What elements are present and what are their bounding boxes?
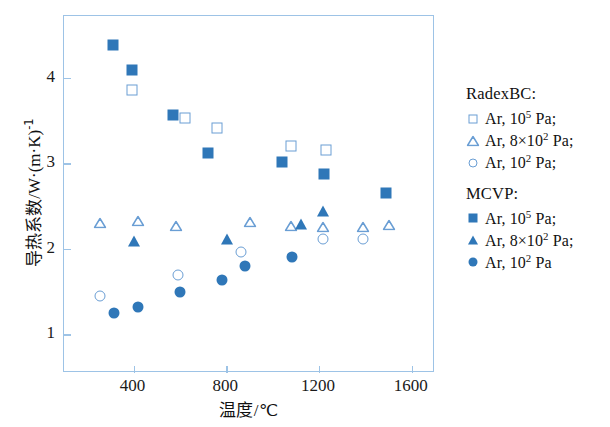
data-point — [170, 220, 183, 231]
legend-marker-square-open-icon — [466, 112, 480, 126]
y-axis-title-unit: /W·(m·K) — [25, 130, 44, 199]
legend-exponent: 2 — [543, 130, 549, 142]
data-point — [94, 290, 105, 301]
data-point — [127, 64, 138, 75]
data-point — [107, 40, 118, 51]
legend: RadexBC:Ar, 105 Pa;Ar, 8×102 Pa;Ar, 102 … — [466, 86, 610, 273]
legend-marker-triangle-filled-icon — [466, 233, 480, 247]
data-point — [239, 260, 250, 271]
x-tick — [412, 366, 413, 373]
legend-item-label: Ar, 105 Pa; — [485, 109, 556, 127]
data-point — [276, 156, 287, 167]
legend-exponent: 2 — [526, 252, 532, 264]
x-tick-label: 800 — [213, 376, 239, 396]
x-tick-label: 1600 — [394, 376, 428, 396]
data-point — [236, 247, 247, 258]
data-point — [381, 188, 392, 199]
data-point — [212, 123, 223, 134]
data-point — [243, 217, 256, 228]
data-point — [358, 234, 369, 245]
data-point — [127, 85, 138, 96]
data-point — [179, 112, 190, 123]
legend-marker-circle-filled-icon — [466, 255, 480, 269]
x-axis-title-text: 温度 — [219, 400, 253, 420]
data-point — [172, 269, 183, 280]
data-point — [167, 110, 178, 121]
data-point — [202, 147, 213, 158]
data-point — [128, 236, 140, 247]
legend-item-label: Ar, 8×102 Pa; — [485, 231, 573, 249]
data-point — [382, 219, 395, 230]
legend-item[interactable]: Ar, 102 Pa — [466, 251, 610, 273]
data-point — [93, 218, 106, 229]
legend-group-title: MCVP: — [466, 186, 610, 203]
y-axis-title-exponent: -1 — [22, 118, 36, 130]
data-point — [357, 222, 370, 233]
data-point — [317, 233, 328, 244]
data-point — [174, 286, 185, 297]
legend-exponent: 5 — [526, 208, 532, 220]
legend-item[interactable]: Ar, 102 Pa; — [466, 152, 610, 174]
data-point — [317, 206, 329, 217]
scatter-chart-figure: 40080012001600 1234 温度/℃ 导热系数/W·(m·K)-1 … — [0, 0, 610, 427]
data-point — [295, 219, 307, 230]
legend-item-label: Ar, 102 Pa; — [485, 153, 556, 171]
y-axis-title: 导热系数/W·(m·K)-1 — [20, 28, 45, 358]
y-tick — [64, 249, 71, 250]
data-point — [316, 221, 329, 232]
legend-item[interactable]: Ar, 105 Pa; — [466, 207, 610, 229]
legend-group-title: RadexBC: — [466, 86, 610, 103]
data-point — [132, 215, 145, 226]
plot-area — [64, 16, 433, 371]
y-tick — [64, 78, 71, 79]
x-tick — [319, 366, 320, 373]
y-tick — [64, 163, 71, 164]
y-tick — [64, 334, 71, 335]
legend-exponent: 5 — [526, 108, 532, 120]
data-point — [318, 168, 329, 179]
data-point — [216, 274, 227, 285]
x-tick-label: 1200 — [301, 376, 335, 396]
data-point — [287, 252, 298, 263]
legend-item-label: Ar, 8×102 Pa; — [485, 131, 573, 149]
legend-item[interactable]: Ar, 105 Pa; — [466, 108, 610, 130]
legend-item[interactable]: Ar, 8×102 Pa; — [466, 229, 610, 251]
legend-marker-circle-open-icon — [466, 156, 480, 170]
legend-item-label: Ar, 102 Pa — [485, 253, 552, 271]
x-tick-label: 400 — [120, 376, 146, 396]
legend-marker-triangle-open-icon — [466, 134, 480, 148]
x-tick — [134, 366, 135, 373]
legend-item[interactable]: Ar, 8×102 Pa; — [466, 130, 610, 152]
data-point — [286, 141, 297, 152]
data-point — [321, 145, 332, 156]
x-axis-title-unit: /℃ — [254, 401, 278, 420]
y-axis-title-text: 导热系数 — [24, 199, 44, 267]
legend-item-label: Ar, 105 Pa; — [485, 209, 556, 227]
plot-frame — [63, 15, 434, 372]
x-tick — [226, 366, 227, 373]
data-point — [133, 302, 144, 313]
legend-exponent: 2 — [543, 230, 549, 242]
data-point — [221, 234, 233, 245]
x-axis-title: 温度/℃ — [63, 396, 434, 421]
legend-exponent: 2 — [526, 152, 532, 164]
legend-marker-square-filled-icon — [466, 211, 480, 225]
data-point — [108, 308, 119, 319]
